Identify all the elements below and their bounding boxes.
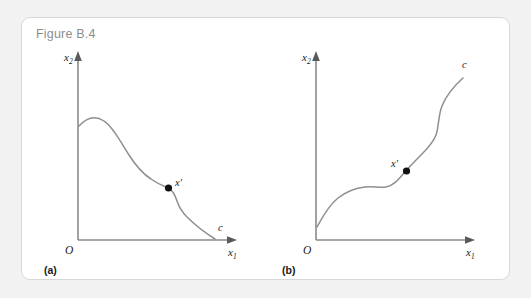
x-axis-arrowhead-b xyxy=(465,236,475,244)
x-axis-arrowhead-a xyxy=(227,236,237,244)
y-axis-arrowhead-a xyxy=(74,51,82,61)
point-marker-a xyxy=(165,184,172,191)
panel-a: x2 x1 O x′ c (a) xyxy=(32,38,262,276)
curve-label-b: c xyxy=(462,60,467,71)
x-axis-label-a: x1 xyxy=(228,247,237,261)
point-label-a: x′ xyxy=(175,178,182,189)
panel-b-plot xyxy=(270,38,500,276)
figure-card: Figure B.4 x2 x1 O x′ c (a) xyxy=(21,17,510,280)
panel-caption-b: (b) xyxy=(282,264,295,276)
curve-c-b xyxy=(317,78,463,227)
point-marker-b xyxy=(403,167,410,174)
point-label-b: x′ xyxy=(391,159,398,170)
panel-a-plot xyxy=(32,38,262,276)
curve-label-a: c xyxy=(218,223,223,234)
panel-caption-a: (a) xyxy=(44,264,57,276)
x-axis-label-b: x1 xyxy=(466,247,475,261)
y-axis-arrowhead-b xyxy=(312,51,320,61)
origin-label-b: O xyxy=(303,245,311,257)
origin-label-a: O xyxy=(65,245,73,257)
y-axis-label-a: x2 xyxy=(64,52,73,66)
panel-b: x2 x1 O x′ c (b) xyxy=(270,38,500,276)
y-axis-label-b: x2 xyxy=(302,52,311,66)
curve-c-a xyxy=(79,118,215,239)
